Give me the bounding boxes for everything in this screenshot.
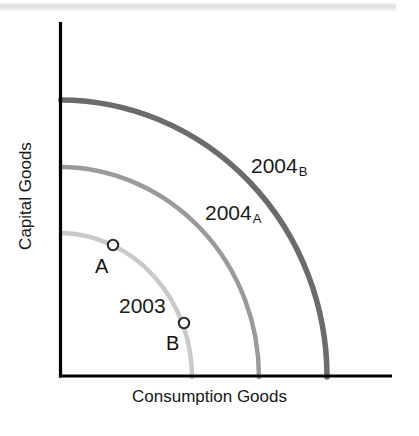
curve-label-2004-b-base: 2004 — [251, 154, 298, 177]
data-point-label-b: B — [166, 333, 179, 353]
data-point-b-marker — [179, 318, 189, 328]
curve-label-2004-b: 2004B — [251, 155, 306, 176]
curve-label-2004-b-sub: B — [299, 164, 308, 179]
data-point-a-marker — [108, 240, 118, 250]
x-axis-title: Consumption Goods — [0, 387, 419, 407]
data-point-label-a: A — [95, 256, 108, 276]
ppf-chart: 2004B 2004A 2003 A B Consumption Goods C… — [0, 0, 419, 436]
curve-2004-a — [61, 167, 259, 377]
curve-label-2004-a-sub: A — [253, 211, 262, 226]
curve-label-2003: 2003 — [119, 295, 166, 316]
curve-label-2004-a-base: 2004 — [205, 201, 252, 224]
y-axis-title: Capital Goods — [16, 116, 36, 276]
curve-label-2004-a: 2004A — [205, 202, 260, 223]
